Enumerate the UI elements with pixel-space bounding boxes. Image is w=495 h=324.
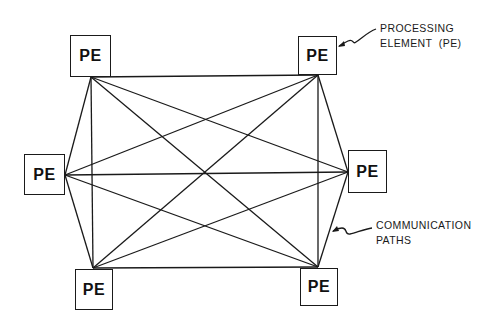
pe-node-bottom-left: PE [75,269,113,310]
pe-node-bottom-right: PE [300,268,338,306]
processing-element-pointer [339,29,376,46]
pe-label: PE [308,278,330,296]
annotation-line: PROCESSING [380,21,461,36]
pe-label: PE [83,281,105,299]
pe-label: PE [306,47,328,65]
pe-label: PE [79,47,101,65]
annotation-line: PATHS [376,233,471,248]
pe-node-top-right: PE [298,36,337,75]
annotation-line: ELEMENT (PE) [380,36,461,51]
communication-paths-pointer [333,228,372,234]
pe-label: PE [33,166,55,184]
pe-node-top-left: PE [70,35,111,77]
processing-element-annotation: PROCESSING ELEMENT (PE) [380,21,461,51]
pe-node-left: PE [24,154,65,195]
pe-label: PE [356,163,378,181]
annotation-line: COMMUNICATION [376,218,471,233]
network-diagram: PE PE PE PE PE PE PROCESSING ELEMENT (PE… [0,0,495,324]
pe-node-right: PE [348,150,387,193]
communication-paths-annotation: COMMUNICATION PATHS [376,218,471,248]
